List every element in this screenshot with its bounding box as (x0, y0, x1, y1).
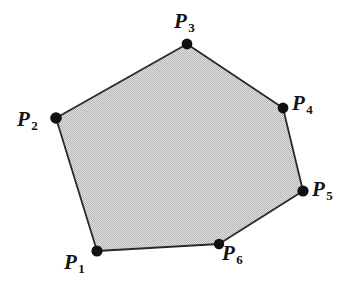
vertex-label-p4-letter: P (292, 91, 305, 115)
vertex-label-p6: P6 (222, 243, 243, 266)
vertex-label-p2-letter: P (17, 107, 30, 131)
vertex-label-p1: P1 (64, 252, 85, 275)
vertex-marker-p2 (50, 112, 62, 124)
vertex-label-p5-subscript: 5 (325, 188, 333, 203)
vertex-label-p4: P4 (292, 93, 313, 116)
vertex-label-p1-subscript: 1 (77, 261, 85, 276)
vertex-label-p4-subscript: 4 (305, 102, 313, 117)
polygon-figure: P1 P2 P3 P4 P5 P6 (0, 0, 354, 290)
vertex-label-p5-letter: P (312, 177, 325, 201)
vertex-marker-p3 (182, 39, 193, 50)
vertex-label-p1-letter: P (64, 250, 77, 274)
vertex-marker-p1 (91, 245, 102, 256)
vertex-label-p2: P2 (17, 109, 38, 132)
polygon-shape (56, 44, 303, 251)
vertex-marker-p4 (278, 103, 289, 114)
vertex-marker-p5 (297, 185, 308, 196)
vertex-label-p6-letter: P (222, 241, 235, 265)
vertex-label-p6-subscript: 6 (235, 252, 243, 267)
vertex-label-p3-subscript: 3 (187, 20, 195, 35)
vertex-label-p2-subscript: 2 (30, 118, 38, 133)
vertex-label-p5: P5 (312, 179, 333, 202)
polygon-canvas (0, 0, 354, 290)
vertex-label-p3: P3 (174, 11, 195, 34)
vertex-label-p3-letter: P (174, 9, 187, 33)
